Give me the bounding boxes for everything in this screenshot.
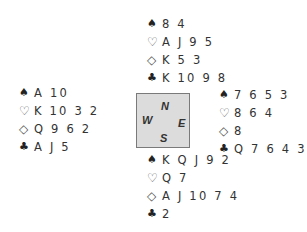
north-hearts: A J 9 5 xyxy=(162,33,214,51)
north-clubs: K 10 9 8 xyxy=(162,69,227,87)
west-hearts: K 10 3 2 xyxy=(34,102,99,120)
east-hearts: 8 6 4 xyxy=(234,104,274,122)
east-spades-row: ♠ 7 6 5 3 xyxy=(219,86,307,104)
compass-east-label: E xyxy=(178,117,185,129)
spade-icon: ♠ xyxy=(147,151,162,169)
west-diamonds-row: ◇ Q 9 6 2 xyxy=(19,120,99,138)
compass-south-label: S xyxy=(160,132,167,144)
south-hearts-row: ♡ Q 7 xyxy=(147,169,239,187)
south-clubs: 2 xyxy=(162,205,172,223)
north-spades: 8 4 xyxy=(162,15,187,33)
west-hand: ♠ A 10 ♡ K 10 3 2 ◇ Q 9 6 2 ♣ A J 5 xyxy=(19,84,99,156)
west-spades-row: ♠ A 10 xyxy=(19,84,99,102)
heart-icon: ♡ xyxy=(147,169,162,187)
compass-box: N W E S xyxy=(136,93,190,148)
south-diamonds: A J 10 7 4 xyxy=(162,187,239,205)
club-icon: ♣ xyxy=(19,138,34,156)
north-hand: ♠ 8 4 ♡ A J 9 5 ◇ K 5 3 ♣ K 10 9 8 xyxy=(147,15,227,87)
east-spades: 7 6 5 3 xyxy=(234,86,290,104)
east-clubs: Q 7 6 4 3 xyxy=(234,140,307,158)
diamond-icon: ◇ xyxy=(219,122,234,140)
south-spades: K Q J 9 2 xyxy=(162,151,231,169)
west-clubs: A J 5 xyxy=(34,138,71,156)
south-hand: ♠ K Q J 9 2 ♡ Q 7 ◇ A J 10 7 4 ♣ 2 xyxy=(147,151,239,223)
north-diamonds-row: ◇ K 5 3 xyxy=(147,51,227,69)
diamond-icon: ◇ xyxy=(147,187,162,205)
west-diamonds: Q 9 6 2 xyxy=(34,120,91,138)
diamond-icon: ◇ xyxy=(147,51,162,69)
north-hearts-row: ♡ A J 9 5 xyxy=(147,33,227,51)
west-spades: A 10 xyxy=(34,84,69,102)
west-hearts-row: ♡ K 10 3 2 xyxy=(19,102,99,120)
west-clubs-row: ♣ A J 5 xyxy=(19,138,99,156)
east-diamonds-row: ◇ 8 xyxy=(219,122,307,140)
spade-icon: ♠ xyxy=(19,84,34,102)
compass-west-label: W xyxy=(142,114,152,126)
club-icon: ♣ xyxy=(147,205,162,223)
club-icon: ♣ xyxy=(147,69,162,87)
heart-icon: ♡ xyxy=(219,104,234,122)
north-clubs-row: ♣ K 10 9 8 xyxy=(147,69,227,87)
heart-icon: ♡ xyxy=(147,33,162,51)
south-clubs-row: ♣ 2 xyxy=(147,205,239,223)
spade-icon: ♠ xyxy=(219,86,234,104)
east-hearts-row: ♡ 8 6 4 xyxy=(219,104,307,122)
diamond-icon: ◇ xyxy=(19,120,34,138)
north-diamonds: K 5 3 xyxy=(162,51,203,69)
south-diamonds-row: ◇ A J 10 7 4 xyxy=(147,187,239,205)
south-spades-row: ♠ K Q J 9 2 xyxy=(147,151,239,169)
compass-north-label: N xyxy=(161,100,169,112)
east-diamonds: 8 xyxy=(234,122,244,140)
east-hand: ♠ 7 6 5 3 ♡ 8 6 4 ◇ 8 ♣ Q 7 6 4 3 xyxy=(219,86,307,158)
south-hearts: Q 7 xyxy=(162,169,189,187)
north-spades-row: ♠ 8 4 xyxy=(147,15,227,33)
spade-icon: ♠ xyxy=(147,15,162,33)
heart-icon: ♡ xyxy=(19,102,34,120)
